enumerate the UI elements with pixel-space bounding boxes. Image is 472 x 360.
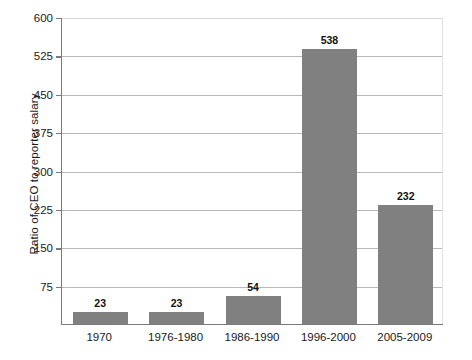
bar-value-label: 54 [226,281,281,293]
x-axis-labels: 19701976-19801986-19901996-20002005-2009 [61,331,443,351]
bar-group: 23 [73,18,128,324]
bar[interactable] [302,49,357,324]
plot-area: 75150225300375450525600 232354538232 [61,18,443,325]
y-axis-tick-label: 150 [34,242,53,254]
bar-value-label: 538 [302,34,357,46]
bar-group: 232 [378,18,433,324]
bar[interactable] [149,312,204,324]
x-axis-label: 2005-2009 [367,331,443,343]
bar-value-label: 232 [378,190,433,202]
bar-group: 54 [226,18,281,324]
x-axis-label: 1996-2000 [290,331,366,343]
x-axis-label: 1976-1980 [137,331,213,343]
bar[interactable] [73,312,128,324]
bar-group: 538 [302,18,357,324]
bar-value-label: 23 [73,297,128,309]
y-axis-tick-label: 450 [34,89,53,101]
y-axis-tick-label: 75 [40,281,53,293]
y-axis-tick-label: 525 [34,50,53,62]
bar[interactable] [378,205,433,324]
y-axis-tick-label: 375 [34,127,53,139]
y-axis-tick-label: 300 [34,166,53,178]
bar-chart: Ratio of CEO to reporter salary 75150225… [0,0,472,360]
y-axis-tick-label: 600 [34,12,53,24]
x-axis-label: 1970 [61,331,137,343]
bar-value-label: 23 [149,297,204,309]
y-axis-tick-label: 225 [34,204,53,216]
bar[interactable] [226,296,281,324]
bar-group: 23 [149,18,204,324]
bar-series: 232354538232 [62,18,443,324]
x-axis-label: 1986-1990 [214,331,290,343]
